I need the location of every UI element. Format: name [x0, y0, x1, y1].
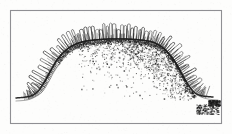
engraving-illustration: [0, 0, 232, 134]
figure-plate: Dome-shaped ciliated organism cross-sect…: [0, 0, 232, 134]
